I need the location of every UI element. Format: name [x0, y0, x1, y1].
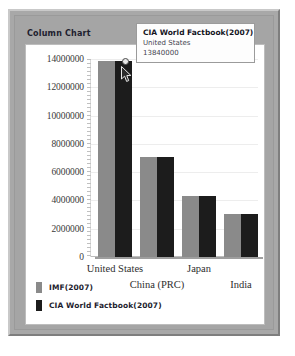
y-axis-tick-label: 12000000: [47, 82, 84, 92]
y-axis-tick: [87, 139, 91, 140]
y-axis-tick: [87, 243, 91, 244]
y-axis-tick-label: 0: [79, 252, 84, 262]
chart-panel[interactable]: 1400000012000000100000008000000600000040…: [25, 44, 265, 325]
y-axis-tick: [87, 183, 91, 184]
bar[interactable]: [157, 157, 174, 257]
tooltip-series-name: CIA World Factbook(2007): [143, 28, 249, 38]
bar-group-base: [221, 257, 263, 259]
y-axis-tick: [87, 175, 91, 176]
y-axis-tick: [87, 155, 91, 156]
mouse-cursor-icon: [121, 66, 132, 87]
bar[interactable]: [140, 157, 157, 257]
y-axis-tick-label: 2000000: [51, 224, 84, 234]
y-axis-tick: [87, 71, 91, 72]
bar[interactable]: [182, 196, 199, 257]
bar-group-base: [179, 257, 221, 259]
window-inner-panel: Column Chart 140000001200000010000000800…: [14, 15, 274, 330]
y-axis-tick: [87, 67, 91, 68]
y-axis-tick: [87, 167, 91, 168]
y-axis-tick: [87, 151, 91, 152]
legend-item-label: IMF(2007): [49, 283, 93, 292]
y-axis-tick: [87, 163, 91, 164]
legend-item-label: CIA World Factbook(2007): [49, 301, 162, 310]
bar-group[interactable]: [98, 59, 134, 257]
y-axis-tick: [87, 107, 91, 108]
y-axis-tick-label: 4000000: [51, 195, 84, 205]
y-axis-tick: [87, 219, 91, 220]
bar-group[interactable]: [224, 59, 260, 257]
y-axis-tick: [87, 99, 91, 100]
y-axis-tick: [87, 251, 91, 252]
y-axis-tick: [87, 247, 91, 248]
y-axis-tick: [87, 191, 91, 192]
legend-item[interactable]: CIA World Factbook(2007): [36, 298, 251, 313]
legend-swatch-imf: [36, 282, 42, 293]
y-axis-tick: [87, 127, 91, 128]
y-axis-tick: [87, 111, 91, 112]
y-axis-tick: [87, 239, 91, 240]
x-axis-label: Japan: [187, 263, 211, 274]
bar[interactable]: [199, 196, 216, 257]
x-axis-label: United States: [87, 263, 143, 274]
y-axis-tick: [87, 215, 91, 216]
legend-swatch-cia: [36, 300, 42, 311]
bar[interactable]: [115, 61, 132, 257]
plot-area[interactable]: [90, 59, 258, 257]
y-axis-tick: [87, 91, 91, 92]
bar[interactable]: [98, 61, 115, 257]
y-axis-tick: [87, 211, 91, 212]
bar-group-base: [137, 257, 179, 259]
y-axis-tick: [87, 103, 91, 104]
tooltip-value: 13840000: [143, 48, 249, 58]
y-axis-tick: [87, 131, 91, 132]
y-axis-tick: [87, 75, 91, 76]
chart-legend: IMF(2007)CIA World Factbook(2007): [36, 280, 251, 316]
bar-group[interactable]: [182, 59, 218, 257]
y-axis-tick: [87, 119, 91, 120]
legend-item[interactable]: IMF(2007): [36, 280, 251, 295]
application-window: Column Chart 140000001200000010000000800…: [8, 9, 280, 336]
y-axis-tick-label: 6000000: [51, 167, 84, 177]
chart-tooltip: CIA World Factbook(2007) United States 1…: [136, 23, 255, 63]
y-axis-tick: [87, 195, 91, 196]
y-axis-tick: [87, 231, 91, 232]
y-axis-tick: [87, 63, 91, 64]
y-axis-tick: [87, 95, 91, 96]
y-axis-tick: [87, 135, 91, 136]
y-axis-tick: [87, 147, 91, 148]
y-axis-tick: [87, 223, 91, 224]
y-axis-tick: [87, 203, 91, 204]
y-axis-tick-label: 14000000: [47, 54, 84, 64]
y-axis-tick: [87, 159, 91, 160]
plot-wrapper: 1400000012000000100000008000000600000040…: [26, 45, 264, 270]
bar[interactable]: [224, 214, 241, 257]
y-axis-tick: [87, 123, 91, 124]
bar-group[interactable]: [140, 59, 176, 257]
y-axis-tick-label: 10000000: [47, 111, 84, 121]
y-axis-tick: [87, 207, 91, 208]
y-axis-tick: [87, 79, 91, 80]
y-axis-tick: [87, 179, 91, 180]
y-axis-tick: [87, 187, 91, 188]
bar-group-base: [95, 257, 137, 259]
bar[interactable]: [241, 214, 258, 257]
y-axis-tick: [87, 83, 91, 84]
y-axis: 1400000012000000100000008000000600000040…: [26, 45, 88, 270]
y-axis-tick: [87, 235, 91, 236]
tooltip-category: United States: [143, 38, 249, 48]
page-title: Column Chart: [27, 29, 91, 38]
y-axis-tick-strip: [86, 59, 91, 257]
y-axis-tick-label: 8000000: [51, 139, 84, 149]
